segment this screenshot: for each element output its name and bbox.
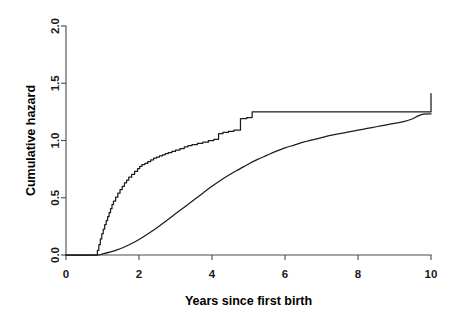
series-line-step: [66, 94, 431, 255]
x-tick-label: 6: [282, 268, 288, 280]
x-tick-label: 10: [425, 268, 438, 280]
y-tick-label: 0.0: [49, 247, 61, 263]
cumulative-hazard-figure: 0.00.51.01.52.0 0246810 Years since firs…: [0, 0, 455, 317]
x-axis-title: Years since first birth: [185, 294, 312, 308]
x-tick-label: 4: [209, 268, 216, 280]
y-tick-label: 1.0: [49, 133, 61, 149]
x-axis: 0246810: [63, 255, 438, 280]
y-axis-title: Cumulative hazard: [24, 85, 38, 196]
data-series-group: [66, 94, 431, 256]
x-tick-label: 0: [63, 268, 69, 280]
y-tick-label: 2.0: [49, 18, 61, 34]
series-line-smooth: [66, 114, 431, 255]
y-tick-label: 1.5: [49, 75, 61, 92]
y-axis: 0.00.51.01.52.0: [49, 18, 66, 263]
chart-canvas: 0.00.51.01.52.0 0246810 Years since firs…: [0, 0, 455, 317]
x-tick-label: 8: [355, 268, 362, 280]
y-tick-label: 0.5: [49, 189, 61, 206]
x-tick-label: 2: [136, 268, 142, 280]
